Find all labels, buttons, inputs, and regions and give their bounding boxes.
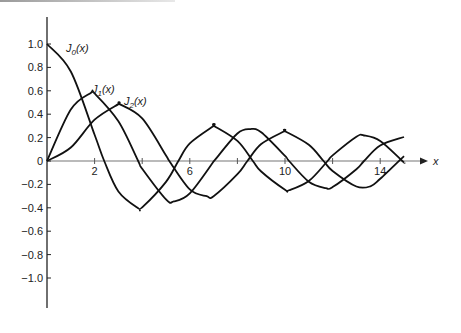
y-tick-label: −0.6 (21, 225, 43, 237)
x-tick-label: 6 (187, 165, 193, 177)
curves (47, 44, 405, 210)
x-tick-label: 2 (92, 165, 98, 177)
y-tick-label: 0.8 (28, 61, 43, 73)
y-tick-label: 0.4 (28, 108, 43, 120)
j0-label: J0(x) (65, 42, 89, 57)
y-tick-label: −1.0 (21, 272, 43, 284)
y-tick-label: −0.4 (21, 202, 43, 214)
x-tick-label: 10 (279, 165, 291, 177)
y-tick-label: 0.6 (28, 85, 43, 97)
y-tick-label: 1.0 (28, 38, 43, 50)
y-tick-label: 0.2 (28, 132, 43, 144)
bessel-chart: x −1.0−0.8−0.6−0.4−0.200.20.40.60.81.026… (0, 0, 461, 333)
y-tick-label: −0.8 (21, 249, 43, 261)
y-tick-label: −0.2 (21, 178, 43, 190)
curve-labels: J0(x)J1(x)J2(x) (65, 42, 147, 110)
y-tick-label: 0 (37, 155, 43, 167)
j1-label: J1(x) (91, 83, 115, 98)
x-axis-label: x (432, 155, 439, 167)
x-axis-arrow-icon (420, 158, 428, 165)
